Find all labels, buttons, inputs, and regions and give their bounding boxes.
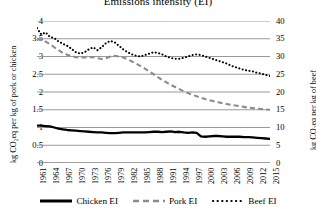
right-axis-tick: 15 xyxy=(276,105,285,114)
legend-item-pork: Pork EI xyxy=(132,196,197,206)
left-axis-title: kg CO₂eq per kg of pork or chicken xyxy=(9,46,18,163)
x-axis-tick: 1997 xyxy=(196,168,204,184)
legend-label-beef: Beef EI xyxy=(248,196,276,206)
legend-label-chicken: Chicken EI xyxy=(76,196,118,206)
x-axis-tick: 1991 xyxy=(170,168,178,184)
x-axis-tick: 1979 xyxy=(118,168,126,184)
right-axis-tick: 40 xyxy=(276,17,285,26)
x-axis-tick: 1973 xyxy=(92,168,100,184)
series-line-beef-ei xyxy=(37,28,270,76)
emissions-intensity-chart: Emissions intensity (EI) kg CO₂eq per kg… xyxy=(0,0,316,216)
x-axis-tick: 1961 xyxy=(40,168,48,184)
right-axis-tick: 20 xyxy=(276,88,285,97)
plot-area xyxy=(37,21,270,163)
chart-title: Emissions intensity (EI) xyxy=(0,0,316,7)
x-axis-tick: 1976 xyxy=(105,168,113,184)
chart-legend: Chicken EI Pork EI Beef EI xyxy=(0,196,316,206)
right-axis-tick: 5 xyxy=(276,141,280,150)
x-axis-tick: 1964 xyxy=(53,168,61,184)
legend-item-chicken: Chicken EI xyxy=(39,196,118,206)
x-axis-tick: 1985 xyxy=(144,168,152,184)
x-axis-tick: 2015 xyxy=(273,168,281,184)
x-axis-tick: 2000 xyxy=(208,168,216,184)
right-axis-tick: 30 xyxy=(276,52,285,61)
right-axis-title: kg CO₂eq per kg of beef xyxy=(309,70,316,150)
right-axis-tick: 35 xyxy=(276,34,285,43)
data-series-layer xyxy=(37,28,270,139)
x-axis-tick: 1988 xyxy=(157,168,165,184)
legend-item-beef: Beef EI xyxy=(211,196,276,206)
plot-svg xyxy=(37,21,270,163)
right-axis-tick: 0 xyxy=(276,159,280,168)
legend-label-pork: Pork EI xyxy=(169,196,197,206)
right-axis-tick: 25 xyxy=(276,70,285,79)
x-axis-tick: 2012 xyxy=(260,168,268,184)
x-axis-tick: 2006 xyxy=(234,168,242,184)
x-axis-tick: 1970 xyxy=(79,168,87,184)
legend-swatch-dashed-icon xyxy=(132,197,166,205)
legend-swatch-solid-icon xyxy=(39,197,73,205)
x-axis-tick: 2009 xyxy=(247,168,255,184)
x-axis-tick: 1982 xyxy=(131,168,139,184)
x-axis-tick: 1994 xyxy=(183,168,191,184)
x-axis-tick: 2003 xyxy=(221,168,229,184)
legend-swatch-dotted-icon xyxy=(211,197,245,205)
right-axis-tick: 10 xyxy=(276,123,285,132)
x-axis-tick: 1967 xyxy=(66,168,74,184)
gridlines xyxy=(37,21,270,163)
